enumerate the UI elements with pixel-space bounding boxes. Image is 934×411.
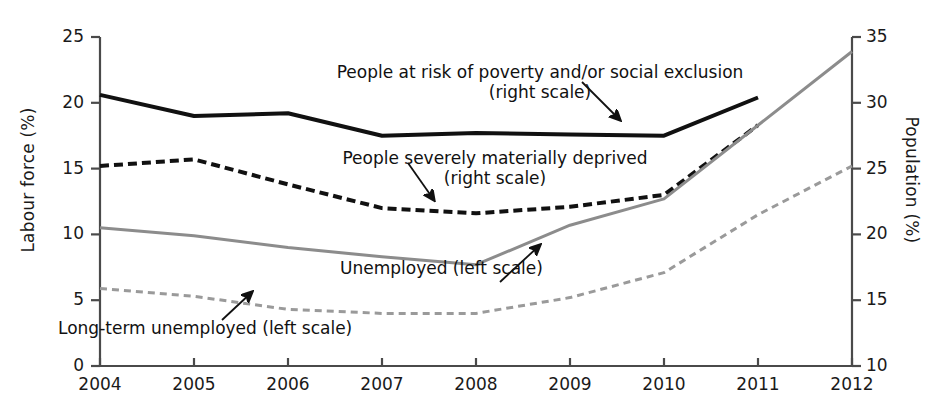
x-tick-label-2004: 2004 xyxy=(65,374,135,394)
y-tick-label-left-10: 10 xyxy=(50,223,84,243)
y-tick-label-right-35: 35 xyxy=(866,26,900,46)
annotation-deprived-line1: People severely materially deprived xyxy=(330,148,660,168)
annotation-poverty-line1: People at risk of poverty and/or social … xyxy=(330,62,750,82)
annotation-unemployed-line1: Unemployed (left scale) xyxy=(340,258,543,278)
x-tick-label-2007: 2007 xyxy=(347,374,417,394)
x-tick-label-2005: 2005 xyxy=(159,374,229,394)
y-tick-label-right-30: 30 xyxy=(866,92,900,112)
x-tick-label-2011: 2011 xyxy=(723,374,793,394)
y-tick-label-right-25: 25 xyxy=(866,158,900,178)
y-tick-label-right-20: 20 xyxy=(866,223,900,243)
y-tick-label-left-25: 25 xyxy=(50,26,84,46)
x-axis-ticks xyxy=(100,358,852,366)
y-axis-left-ticks xyxy=(91,37,100,366)
annotation-longterm-line1: Long-term unemployed (left scale) xyxy=(58,318,352,338)
y-tick-label-right-10: 10 xyxy=(866,355,900,375)
y-tick-label-left-20: 20 xyxy=(50,92,84,112)
series-line-3 xyxy=(100,166,852,313)
annotation-deprived: People severely materially deprived (rig… xyxy=(330,148,660,188)
y-axis-right-title: Population (%) xyxy=(902,80,922,280)
x-tick-label-2010: 2010 xyxy=(629,374,699,394)
x-tick-label-2009: 2009 xyxy=(535,374,605,394)
y-tick-label-left-0: 0 xyxy=(50,355,84,375)
x-tick-label-2006: 2006 xyxy=(253,374,323,394)
y-tick-label-left-5: 5 xyxy=(50,289,84,309)
y-axis-left-title: Labour force (%) xyxy=(18,80,38,280)
annotation-poverty-line2: (right scale) xyxy=(330,82,750,102)
y-tick-label-left-15: 15 xyxy=(50,158,84,178)
annotation-deprived-line2: (right scale) xyxy=(330,168,660,188)
x-tick-label-2008: 2008 xyxy=(441,374,511,394)
arrow-longterm xyxy=(222,292,252,320)
y-tick-label-right-15: 15 xyxy=(866,289,900,309)
y-axis-right-ticks xyxy=(852,37,861,366)
annotation-arrows xyxy=(222,82,620,320)
x-tick-label-2012: 2012 xyxy=(817,374,887,394)
chart-figure: Labour force (%) Population (%) 05101520… xyxy=(0,0,934,411)
annotation-unemployed: Unemployed (left scale) xyxy=(340,258,543,278)
annotation-poverty: People at risk of poverty and/or social … xyxy=(330,62,750,102)
annotation-longterm: Long-term unemployed (left scale) xyxy=(58,318,352,338)
